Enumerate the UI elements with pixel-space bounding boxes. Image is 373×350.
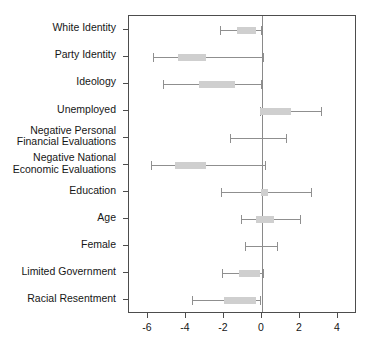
inner-interval-bar	[224, 297, 256, 304]
ci-cap-low	[222, 269, 223, 278]
x-axis-tick	[337, 313, 338, 318]
ci-cap-high	[261, 80, 262, 89]
y-axis-label: Party Identity	[0, 49, 124, 61]
ci-cap-low	[230, 134, 231, 143]
inner-interval-bar	[178, 54, 206, 61]
x-axis-tick	[299, 313, 300, 318]
y-axis-label: Age	[0, 212, 124, 224]
ci-cap-high	[263, 269, 264, 278]
y-axis-tick	[123, 56, 128, 57]
y-axis-label: Negative National Economic Evaluations	[0, 152, 124, 175]
x-axis-tick	[185, 313, 186, 318]
inner-interval-bar	[199, 81, 235, 88]
y-axis-tick	[123, 218, 128, 219]
inner-interval-bar	[260, 108, 291, 115]
confidence-interval-line	[151, 165, 265, 166]
y-axis-tick	[123, 164, 128, 165]
ci-cap-low	[151, 161, 152, 170]
inner-interval-bar	[261, 189, 268, 196]
x-axis-tick-label: 4	[317, 321, 357, 333]
x-axis-tick-label: 0	[241, 321, 281, 333]
y-axis-label: Ideology	[0, 76, 124, 88]
y-axis-labels: White IdentityParty IdentityIdeologyUnem…	[0, 0, 124, 350]
x-axis-tick	[261, 313, 262, 318]
y-axis-tick	[123, 29, 128, 30]
confidence-interval-line	[230, 138, 286, 139]
ci-cap-low	[221, 188, 222, 197]
ci-cap-low	[241, 215, 242, 224]
ci-cap-high	[311, 188, 312, 197]
ci-cap-low	[163, 80, 164, 89]
y-axis-label: Racial Resentment	[0, 293, 124, 305]
ci-cap-high	[286, 134, 287, 143]
y-axis-tick	[123, 137, 128, 138]
ci-cap-low	[220, 26, 221, 35]
y-axis-tick	[123, 299, 128, 300]
y-axis-label: Limited Government	[0, 266, 124, 278]
x-axis-tick	[223, 313, 224, 318]
ci-cap-low	[245, 242, 246, 251]
confidence-interval-line	[245, 246, 277, 247]
inner-interval-bar	[256, 216, 274, 223]
ci-cap-high	[277, 242, 278, 251]
y-axis-tick	[123, 110, 128, 111]
ci-cap-low	[153, 53, 154, 62]
y-axis-tick	[123, 83, 128, 84]
x-axis-tick-label: -6	[127, 321, 167, 333]
ci-cap-high	[265, 161, 266, 170]
y-axis-label: Negative Personal Financial Evaluations	[0, 125, 124, 148]
inner-interval-bar	[239, 270, 260, 277]
ci-cap-high	[261, 26, 262, 35]
y-axis-label: Education	[0, 185, 124, 197]
y-axis-label: Female	[0, 239, 124, 251]
y-axis-tick	[123, 272, 128, 273]
inner-interval-bar	[237, 27, 256, 34]
ci-cap-high	[321, 107, 322, 116]
y-axis-tick	[123, 191, 128, 192]
coefficient-plot: White IdentityParty IdentityIdeologyUnem…	[0, 0, 373, 350]
y-axis-label: White Identity	[0, 22, 124, 34]
y-axis-label: Unemployed	[0, 104, 124, 116]
x-axis-tick	[147, 313, 148, 318]
x-axis-tick-label: 2	[279, 321, 319, 333]
x-axis-tick-label: -2	[203, 321, 243, 333]
y-axis-tick	[123, 245, 128, 246]
x-axis-tick-label: -4	[165, 321, 205, 333]
ci-cap-high	[260, 296, 261, 305]
plot-area	[128, 15, 356, 313]
confidence-interval-line	[153, 57, 263, 58]
inner-interval-bar	[175, 162, 206, 169]
ci-cap-low	[192, 296, 193, 305]
ci-cap-high	[300, 215, 301, 224]
ci-cap-high	[263, 53, 264, 62]
